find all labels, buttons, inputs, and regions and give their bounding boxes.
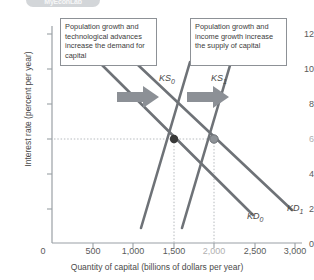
y-tick-label-10: 10 (292, 64, 314, 74)
x-tick-label-0: 0 (40, 246, 45, 256)
y-tick-label-4: 4 (292, 169, 314, 179)
x-axis-title: Quantity of capital (billions of dollars… (0, 262, 314, 272)
new-equilibrium-point (210, 135, 218, 143)
x-tick-label-2000: 2,000 (203, 246, 226, 256)
initial-equilibrium-point (170, 135, 178, 143)
curve-label-kd1: KD1 (287, 203, 303, 215)
y-tick-label-6: 6 (292, 134, 314, 144)
curve-label-ks0: KS0 (159, 73, 175, 85)
x-tick-label-1000: 1,000 (122, 246, 145, 256)
y-tick-label-8: 8 (292, 99, 314, 109)
curve-label-kd0: KD0 (247, 211, 263, 223)
curve-label-ks1: KS1 (211, 73, 227, 85)
x-tick-label-1500: 1,500 (163, 246, 186, 256)
demand-shift-note: Population growth and technological adva… (60, 18, 157, 66)
y-tick-label-12: 12 (292, 29, 314, 39)
y-tick-marks (47, 34, 52, 209)
demand-shift-arrow (117, 86, 159, 108)
x-tick-label-500: 500 (85, 246, 100, 256)
x-tick-label-3000: 3,000 (284, 246, 307, 256)
y-axis-title: Interest rate (percent per year) (23, 19, 33, 199)
x-tick-label-2500: 2,500 (244, 246, 267, 256)
supply-shift-note: Population growth and income growth incr… (190, 18, 287, 66)
econ-figure: MyEconLab (0, 0, 314, 280)
